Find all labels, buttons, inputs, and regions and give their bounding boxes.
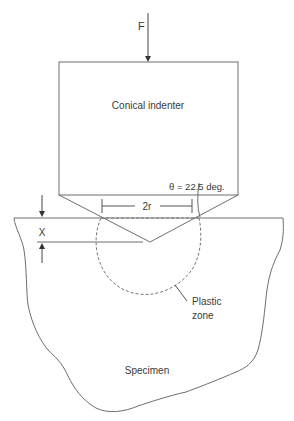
contact-width-label: 2r	[143, 201, 153, 212]
angle-label: θ = 22.5 deg.	[169, 181, 225, 192]
specimen-label: Specimen	[125, 365, 169, 376]
plastic-zone	[96, 218, 201, 294]
depth-dimension	[37, 195, 143, 263]
indentation-diagram: F Conical indenter θ = 22.5 deg. Plastic…	[0, 0, 294, 421]
specimen-outline	[14, 218, 283, 412]
force-arrow	[145, 13, 151, 62]
indenter-label: Conical indenter	[112, 100, 185, 111]
force-label: F	[138, 20, 145, 32]
plastic-zone-label-line1: Plastic	[192, 296, 221, 307]
conical-indenter	[59, 62, 238, 242]
plastic-zone-label-line2: zone	[192, 310, 214, 321]
depth-label: X	[39, 227, 46, 238]
plastic-zone-leader	[175, 285, 187, 301]
